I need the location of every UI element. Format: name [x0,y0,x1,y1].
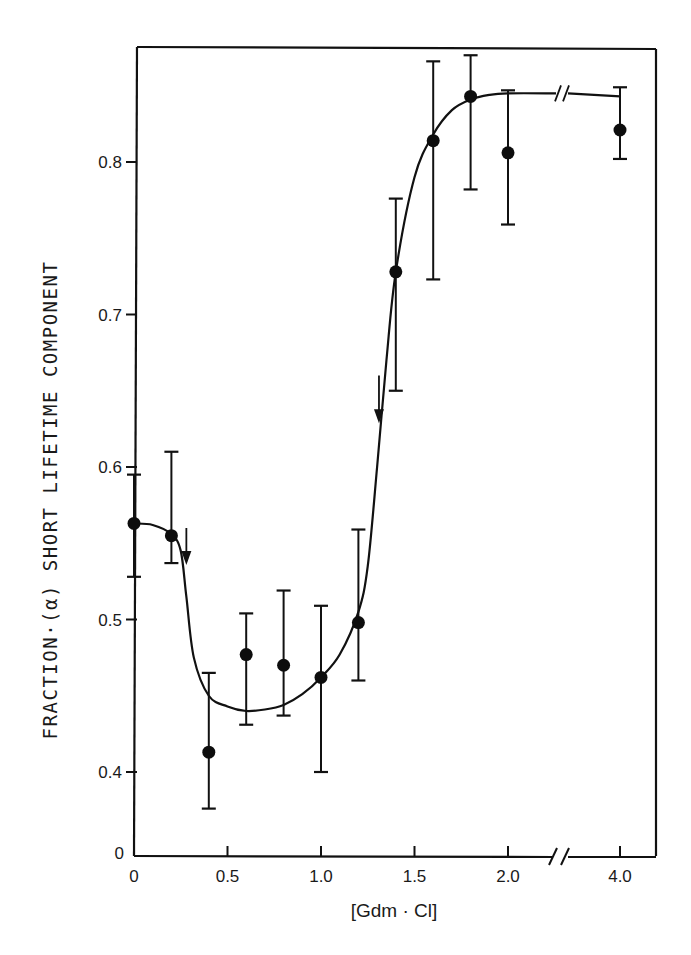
y-tick-label: 0.4 [98,763,122,782]
y-tick-label: 0 [115,844,124,863]
fit-curve [134,85,620,711]
data-point [202,673,216,809]
data-point [464,55,478,189]
data-point [389,199,403,391]
chart-canvas: 00.51.01.52.04.000.40.50.60.70.8 [0,0,691,955]
plot-frame [134,47,656,865]
y-tick-label: 0.7 [98,306,122,325]
data-points [127,55,627,808]
data-point [501,90,515,224]
y-tick-label: 0.6 [98,458,122,477]
annotation-arrows [181,376,384,566]
x-tick-label: 2.0 [496,867,520,886]
x-tick-label: 1.0 [309,867,333,886]
x-axis-label: [Gdm · Cl] [351,900,438,922]
y-tick-label: 0.8 [98,153,122,172]
axis-ticks: 00.51.01.52.04.000.40.50.60.70.8 [98,153,631,886]
x-tick-label: 0 [129,867,138,886]
data-point [613,87,627,159]
x-tick-label: 0.5 [216,867,240,886]
x-tick-label: 4.0 [608,867,632,886]
x-tick-label: 1.5 [403,867,427,886]
data-point [314,606,328,772]
data-point [127,475,141,577]
y-tick-label: 0.5 [98,611,122,630]
y-axis-label: FRACTION·(α) SHORT LIFETIME COMPONENT [39,261,61,740]
data-point [239,613,253,724]
data-point [351,530,365,681]
data-point [277,591,291,716]
data-point [426,61,440,279]
data-point [164,452,178,563]
